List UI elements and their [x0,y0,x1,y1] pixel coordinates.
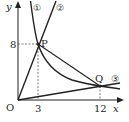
point-q-label: Q [95,73,103,84]
point-p-label: P [41,38,48,49]
y-axis-label: y [5,1,12,12]
point-q [98,84,101,87]
curve-1-label: ① [33,3,41,13]
point-p [36,42,39,45]
curve-3-label: ③ [111,74,119,84]
line-2 [18,1,56,100]
x-axis-label: x [113,103,119,114]
line-3 [18,83,120,100]
origin-label: O [6,102,14,113]
coordinate-diagram: y x O 3 12 8 ① ② ③ P Q [0,0,129,122]
tick-x-3: 3 [35,103,41,114]
curve-2-label: ② [56,3,64,13]
tick-y-8: 8 [10,39,16,50]
y-axis-arrow-icon [15,1,21,8]
segment-pq [38,44,100,86]
tick-x-12: 12 [94,103,107,114]
